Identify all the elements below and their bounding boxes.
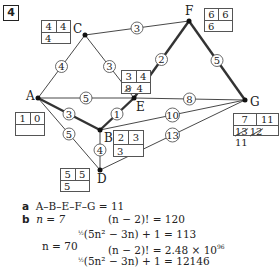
node-G bbox=[243, 98, 248, 103]
n7-polynomial: ½(5n² − 3n) + 1 = 113 bbox=[78, 226, 196, 241]
final-label: 0 bbox=[31, 113, 45, 124]
final-label: 3 bbox=[129, 131, 143, 144]
n70-polynomial: ½(5n² − 3n) + 1 = 12146 bbox=[78, 253, 210, 268]
node-label-D: D bbox=[97, 172, 107, 186]
edge-weight: 13 bbox=[166, 130, 179, 141]
order-label: 1 bbox=[16, 113, 31, 124]
node-label-F: F bbox=[185, 4, 193, 18]
node-box-D: 55 5 bbox=[60, 168, 90, 192]
final-label: 4 bbox=[137, 71, 151, 82]
edge-weight: 1 bbox=[114, 109, 120, 120]
part-b-label: b bbox=[22, 213, 30, 225]
working-values: 6 bbox=[205, 21, 232, 32]
edge-weight: 3 bbox=[134, 23, 140, 34]
final-label: 6 bbox=[219, 9, 232, 20]
node-label-G: G bbox=[250, 95, 260, 109]
edge-weight: 4 bbox=[97, 145, 103, 156]
edge-weight: 8 bbox=[186, 94, 192, 105]
edge-weight: 5 bbox=[83, 93, 89, 104]
final-label: 11 bbox=[257, 114, 279, 125]
final-label: 4 bbox=[57, 21, 71, 32]
node-C bbox=[83, 33, 88, 38]
node-B bbox=[98, 128, 103, 133]
edge-weight: 5 bbox=[214, 55, 220, 66]
edge-weight: 5 bbox=[66, 129, 72, 140]
node-box-E: 34 8 4 bbox=[121, 70, 151, 94]
order-label: 7 bbox=[234, 114, 257, 125]
node-box-C: 44 4 bbox=[41, 20, 71, 44]
edge-weight: 10 bbox=[166, 110, 179, 121]
part-a-label: a bbox=[22, 200, 29, 212]
node-box-A: 10 bbox=[15, 112, 45, 136]
node-label-C: C bbox=[73, 22, 82, 36]
node-A bbox=[36, 96, 41, 101]
n7-factorial: (n − 2)! = 120 bbox=[108, 213, 185, 226]
order-label: 6 bbox=[205, 9, 219, 20]
order-label: 2 bbox=[114, 131, 129, 144]
working-values: 4 bbox=[42, 33, 70, 44]
order-label: 3 bbox=[122, 71, 137, 82]
n70-label: n = 70 bbox=[42, 240, 78, 253]
node-box-G: 711 1312 11 bbox=[233, 113, 279, 136]
node-label-B: B bbox=[104, 131, 113, 145]
working-values: 1312 11 bbox=[234, 126, 278, 137]
edge-weight: 3 bbox=[106, 61, 112, 72]
order-label: 4 bbox=[42, 21, 57, 32]
working-values bbox=[16, 125, 44, 136]
n7-label: n = 7 bbox=[36, 213, 65, 225]
edge-weight: 3 bbox=[66, 109, 72, 120]
node-box-F: 66 6 bbox=[204, 8, 233, 32]
node-F bbox=[187, 19, 192, 24]
order-label: 5 bbox=[61, 169, 76, 180]
final-label: 5 bbox=[76, 169, 90, 180]
node-box-B: 23 3 bbox=[113, 130, 144, 157]
working-values: 8 4 bbox=[122, 83, 150, 94]
edge-weight: 2 bbox=[158, 54, 164, 65]
edge-weight: 4 bbox=[58, 61, 64, 72]
working-values: 3 bbox=[114, 145, 143, 156]
node-label-E: E bbox=[136, 100, 145, 114]
node-label-A: A bbox=[25, 89, 35, 103]
part-a-answer: A–B–E–F–G = 11 bbox=[36, 200, 124, 212]
working-values: 5 bbox=[61, 181, 89, 192]
